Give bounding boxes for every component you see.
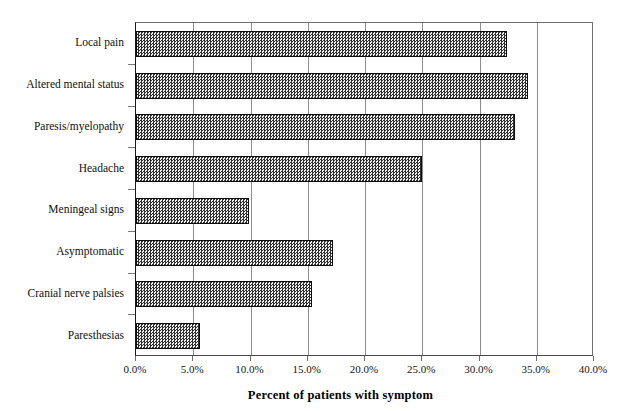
- bar-altered-mental-status: [136, 73, 528, 99]
- bar-row: [136, 315, 592, 357]
- bar-row: [136, 232, 592, 274]
- plot-area: [135, 22, 593, 356]
- bar-meningeal-signs: [136, 198, 249, 224]
- y-axis-label-0: Local pain: [0, 22, 130, 64]
- bar-row: [136, 65, 592, 107]
- y-axis-label-3: Headache: [0, 147, 130, 189]
- x-axis-tick-mark: [536, 356, 537, 361]
- bar-row: [136, 23, 592, 65]
- x-axis-tick-mark: [250, 356, 251, 361]
- x-axis-tick-label: 20.0%: [350, 363, 378, 376]
- x-axis-tick-label: 10.0%: [235, 363, 263, 376]
- bar-row: [136, 148, 592, 190]
- bar-chart: Local pain Altered mental status Paresis…: [0, 0, 625, 411]
- x-axis-tick-label: 35.0%: [522, 363, 550, 376]
- y-axis-label-1: Altered mental status: [0, 64, 130, 106]
- x-axis-tick-mark: [593, 356, 594, 361]
- x-axis-tick-label: 25.0%: [407, 363, 435, 376]
- x-axis-title: Percent of patients with symptom: [0, 388, 625, 403]
- y-axis-label-2: Paresis/myelopathy: [0, 106, 130, 148]
- y-axis-label-5: Asymptomatic: [0, 231, 130, 273]
- x-axis-ticks: 0.0%5.0%10.0%15.0%20.0%25.0%30.0%35.0%40…: [0, 356, 625, 386]
- bar-headache: [136, 156, 422, 182]
- x-axis-tick-label: 5.0%: [181, 363, 204, 376]
- x-axis-tick-label: 15.0%: [293, 363, 321, 376]
- bar-paresis-myelopathy: [136, 114, 515, 140]
- x-axis-tick-mark: [135, 356, 136, 361]
- y-axis-label-7: Paresthesias: [0, 314, 130, 356]
- x-axis-tick-label: 0.0%: [124, 363, 147, 376]
- x-axis-tick-label: 30.0%: [464, 363, 492, 376]
- bar-paresthesias: [136, 323, 200, 349]
- bar-asymptomatic: [136, 240, 333, 266]
- bar-local-pain: [136, 31, 507, 57]
- x-axis-tick-mark: [479, 356, 480, 361]
- y-axis-label-4: Meningeal signs: [0, 189, 130, 231]
- bar-row: [136, 274, 592, 316]
- x-axis-tick-mark: [307, 356, 308, 361]
- x-axis-tick-mark: [421, 356, 422, 361]
- x-axis-tick-mark: [192, 356, 193, 361]
- x-axis-tick-label: 40.0%: [579, 363, 607, 376]
- y-axis-label-6: Cranial nerve palsies: [0, 273, 130, 315]
- bar-cranial-nerve-palsies: [136, 281, 312, 307]
- y-axis-category-labels: Local pain Altered mental status Paresis…: [0, 22, 130, 356]
- bars-layer: [136, 23, 592, 355]
- bar-row: [136, 190, 592, 232]
- x-axis-tick-mark: [364, 356, 365, 361]
- bar-row: [136, 107, 592, 149]
- x-axis-title-text: Percent of patients with symptom: [248, 388, 433, 403]
